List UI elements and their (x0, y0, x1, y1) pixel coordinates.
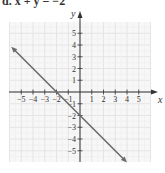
x-tick-label: −5 (17, 95, 26, 104)
y-tick-label: 4 (72, 41, 76, 50)
x-tick-label: 2 (102, 95, 106, 104)
y-tick-label: −2 (67, 112, 76, 121)
x-tick-label: −4 (29, 95, 38, 104)
y-tick-label: 2 (72, 65, 76, 74)
y-axis-label: y (70, 8, 76, 19)
y-tick-label: 1 (72, 76, 76, 85)
y-tick-label: 3 (72, 53, 76, 62)
y-tick-label: 5 (72, 29, 76, 38)
x-tick-label: 5 (137, 95, 141, 104)
x-tick-label: 1 (90, 95, 94, 104)
y-tick-label: −4 (67, 135, 76, 144)
x-tick-label: −2 (52, 95, 61, 104)
coordinate-plane: xy −5−4−3−2−112345−5−4−3−2−112345 (0, 0, 165, 173)
y-tick-label: −3 (67, 123, 76, 132)
x-tick-label: −3 (40, 95, 49, 104)
x-tick-label: 3 (113, 95, 117, 104)
y-tick-label: −5 (67, 147, 76, 156)
x-tick-label: 4 (125, 95, 129, 104)
x-axis-label: x (157, 94, 163, 105)
